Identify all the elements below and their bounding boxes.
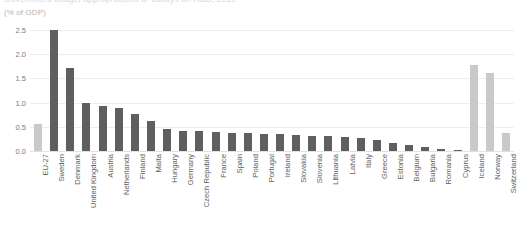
bar-slot xyxy=(30,30,46,151)
x-axis-label-slot: Sweden xyxy=(46,152,62,227)
bar-slot xyxy=(224,30,240,151)
x-axis-label-slot: Latvia xyxy=(337,152,353,227)
x-axis-label-slot: Spain xyxy=(224,152,240,227)
x-axis-label-slot: Finland xyxy=(127,152,143,227)
bar[interactable] xyxy=(50,30,58,151)
y-axis-tick-label: 1.0 xyxy=(0,99,26,107)
x-axis-label-slot: United Kingdom xyxy=(78,152,94,227)
bar[interactable] xyxy=(308,136,316,151)
x-axis-label-slot: Lithuania xyxy=(320,152,336,227)
x-axis-label-slot: Czech Republic xyxy=(191,152,207,227)
bar[interactable] xyxy=(324,136,332,151)
bar-slot xyxy=(417,30,433,151)
x-axis-label-slot: Malta xyxy=(143,152,159,227)
bar-slot xyxy=(401,30,417,151)
x-axis-label-slot: Netherlands xyxy=(111,152,127,227)
x-axis-label-slot: Norway xyxy=(482,152,498,227)
bar[interactable] xyxy=(470,65,478,151)
bar-slot xyxy=(46,30,62,151)
x-axis-label-slot: Ireland xyxy=(272,152,288,227)
x-axis-label-slot: Slovakia xyxy=(288,152,304,227)
x-axis-label-slot: EU-27 xyxy=(30,152,46,227)
bar-slot xyxy=(256,30,272,151)
bar-slot xyxy=(320,30,336,151)
bar-slot xyxy=(159,30,175,151)
bar[interactable] xyxy=(244,133,252,151)
bar[interactable] xyxy=(389,143,397,151)
x-axis-label-slot: Iceland xyxy=(466,152,482,227)
bar-slot xyxy=(304,30,320,151)
x-axis-label-slot: Belgium xyxy=(401,152,417,227)
bar-slot xyxy=(353,30,369,151)
bar[interactable] xyxy=(163,129,171,151)
bar-slot xyxy=(433,30,449,151)
bar-slot xyxy=(111,30,127,151)
bar[interactable] xyxy=(437,149,445,151)
x-axis-label-slot: Hungary xyxy=(159,152,175,227)
bar-slot xyxy=(482,30,498,151)
bar[interactable] xyxy=(502,133,510,151)
x-axis-label-slot: Cyprus xyxy=(449,152,465,227)
bar-slot xyxy=(175,30,191,151)
bar[interactable] xyxy=(454,150,462,151)
bar-slot xyxy=(288,30,304,151)
x-axis-tick-label: Switzerland xyxy=(510,154,518,193)
x-axis-label-slot: Greece xyxy=(369,152,385,227)
bar[interactable] xyxy=(212,132,220,151)
x-axis-label-slot: Italy xyxy=(353,152,369,227)
y-axis-tick-label: 0.0 xyxy=(0,148,26,156)
bar-slot xyxy=(127,30,143,151)
x-axis-label-slot: Slovenia xyxy=(304,152,320,227)
x-axis-label-slot: Bulgaria xyxy=(417,152,433,227)
bar[interactable] xyxy=(228,133,236,151)
bar[interactable] xyxy=(99,106,107,151)
bar[interactable] xyxy=(357,138,365,151)
bar-slot xyxy=(78,30,94,151)
bar-slot xyxy=(369,30,385,151)
x-axis-label-slot: Estonia xyxy=(385,152,401,227)
x-axis-label-slot: Romania xyxy=(433,152,449,227)
bar[interactable] xyxy=(373,140,381,151)
bar[interactable] xyxy=(276,134,284,151)
bar-slot xyxy=(449,30,465,151)
y-axis-tick-label: 1.5 xyxy=(0,75,26,83)
bars-group xyxy=(30,30,514,151)
bar[interactable] xyxy=(486,73,494,151)
x-axis-label-slot: Denmark xyxy=(62,152,78,227)
bar-slot xyxy=(62,30,78,151)
x-axis-label-slot: France xyxy=(207,152,223,227)
bar[interactable] xyxy=(66,68,74,151)
bar[interactable] xyxy=(34,124,42,151)
bar-slot xyxy=(272,30,288,151)
bar[interactable] xyxy=(179,131,187,151)
bar-slot xyxy=(385,30,401,151)
x-axis-label-slot: Germany xyxy=(175,152,191,227)
x-axis-label-slot: Portugal xyxy=(256,152,272,227)
chart-subtitle: (% of GDP) xyxy=(4,8,46,17)
bar[interactable] xyxy=(195,131,203,151)
bar-slot xyxy=(191,30,207,151)
bar-slot xyxy=(498,30,514,151)
x-axis-label-slot: Poland xyxy=(240,152,256,227)
x-axis-label-slot: Switzerland xyxy=(498,152,514,227)
bar[interactable] xyxy=(405,145,413,151)
bar-slot xyxy=(207,30,223,151)
bar[interactable] xyxy=(115,108,123,151)
bar-slot xyxy=(466,30,482,151)
bar[interactable] xyxy=(147,121,155,151)
x-axis-label-slot: Austria xyxy=(95,152,111,227)
bar[interactable] xyxy=(131,114,139,151)
bar-slot xyxy=(95,30,111,151)
y-axis-tick-label: 2.0 xyxy=(0,51,26,59)
chart-title: Government budget appropriations or outl… xyxy=(4,0,236,4)
bar[interactable] xyxy=(260,134,268,151)
bar[interactable] xyxy=(341,137,349,151)
bar[interactable] xyxy=(421,147,429,151)
y-axis-tick-label: 2.5 xyxy=(0,27,26,35)
bar-slot xyxy=(337,30,353,151)
bar[interactable] xyxy=(82,103,90,151)
y-axis-tick-label: 0.5 xyxy=(0,123,26,131)
bar-slot xyxy=(143,30,159,151)
x-axis-labels: EU-27SwedenDenmarkUnited KingdomAustriaN… xyxy=(30,152,514,227)
bar[interactable] xyxy=(292,135,300,151)
